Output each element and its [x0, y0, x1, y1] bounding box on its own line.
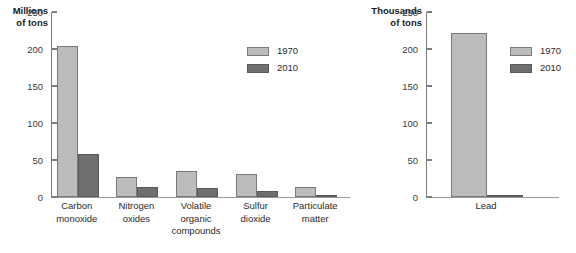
bar-2010 — [78, 154, 99, 197]
bar-group — [295, 12, 337, 197]
legend-left: 1970 2010 — [247, 44, 298, 78]
legend-item-1970: 1970 — [247, 44, 298, 58]
category-label: Nitrogen oxides — [107, 200, 167, 225]
bar-2010 — [197, 188, 218, 197]
emissions-figure: Millions of tons 050100150200250 Carbon … — [0, 0, 576, 253]
bar-1970 — [236, 174, 257, 197]
bar-1970 — [176, 171, 197, 197]
y-tick-label: 150 — [27, 80, 43, 93]
chart-panel-criteria-pollutants: Millions of tons 050100150200250 Carbon … — [0, 0, 390, 253]
plot-area-right: 050100150200250 — [426, 12, 559, 198]
legend-label-2010: 2010 — [540, 62, 561, 74]
bar-group — [57, 12, 99, 197]
bar-2010 — [316, 195, 337, 197]
bar-1970 — [116, 177, 137, 197]
bar-1970 — [57, 46, 78, 197]
bar-1970 — [295, 187, 316, 197]
legend-right: 1970 2010 — [510, 44, 561, 78]
legend-label-1970: 1970 — [277, 45, 298, 57]
category-label: Lead — [420, 200, 552, 213]
y-tick-label: 250 — [27, 6, 43, 19]
y-tick-label: 250 — [402, 6, 418, 19]
y-tick-label: 100 — [27, 117, 43, 130]
legend-swatch-1970 — [247, 47, 269, 56]
chart-panel-lead: Thousands of tons 050100150200250 Lead 1… — [370, 0, 576, 253]
bar-1970 — [451, 33, 487, 197]
y-tick-label: 150 — [402, 80, 418, 93]
category-label: Sulfur dioxide — [226, 200, 286, 225]
x-axis-category-labels-right: Lead — [426, 200, 558, 252]
bar-2010 — [487, 195, 523, 197]
legend-label-2010: 2010 — [277, 62, 298, 74]
bar-2010 — [137, 187, 158, 197]
y-tick-label: 50 — [32, 154, 43, 167]
bar-group — [116, 12, 158, 197]
category-label: Particulate matter — [285, 200, 345, 225]
bar-group — [176, 12, 218, 197]
legend-swatch-1970 — [510, 47, 532, 56]
legend-item-2010: 2010 — [247, 61, 298, 75]
bar-group — [451, 12, 523, 197]
legend-item-1970: 1970 — [510, 44, 561, 58]
bar-2010 — [257, 191, 278, 197]
legend-item-2010: 2010 — [510, 61, 561, 75]
y-tick-label: 0 — [38, 191, 43, 204]
y-tick-label: 200 — [27, 43, 43, 56]
x-axis-category-labels-left: Carbon monoxideNitrogen oxidesVolatile o… — [51, 200, 349, 252]
y-tick-label: 50 — [407, 154, 418, 167]
bar-group — [236, 12, 278, 197]
legend-swatch-2010 — [510, 64, 532, 73]
legend-swatch-2010 — [247, 64, 269, 73]
category-label: Volatile organic compounds — [166, 200, 226, 238]
category-label: Carbon monoxide — [47, 200, 107, 225]
plot-area-left: 050100150200250 — [51, 12, 350, 198]
y-tick-label: 100 — [402, 117, 418, 130]
legend-label-1970: 1970 — [540, 45, 561, 57]
bar-series-right — [427, 12, 559, 197]
y-tick-label: 200 — [402, 43, 418, 56]
bar-series-left — [52, 12, 350, 197]
y-tick-label: 0 — [413, 191, 418, 204]
